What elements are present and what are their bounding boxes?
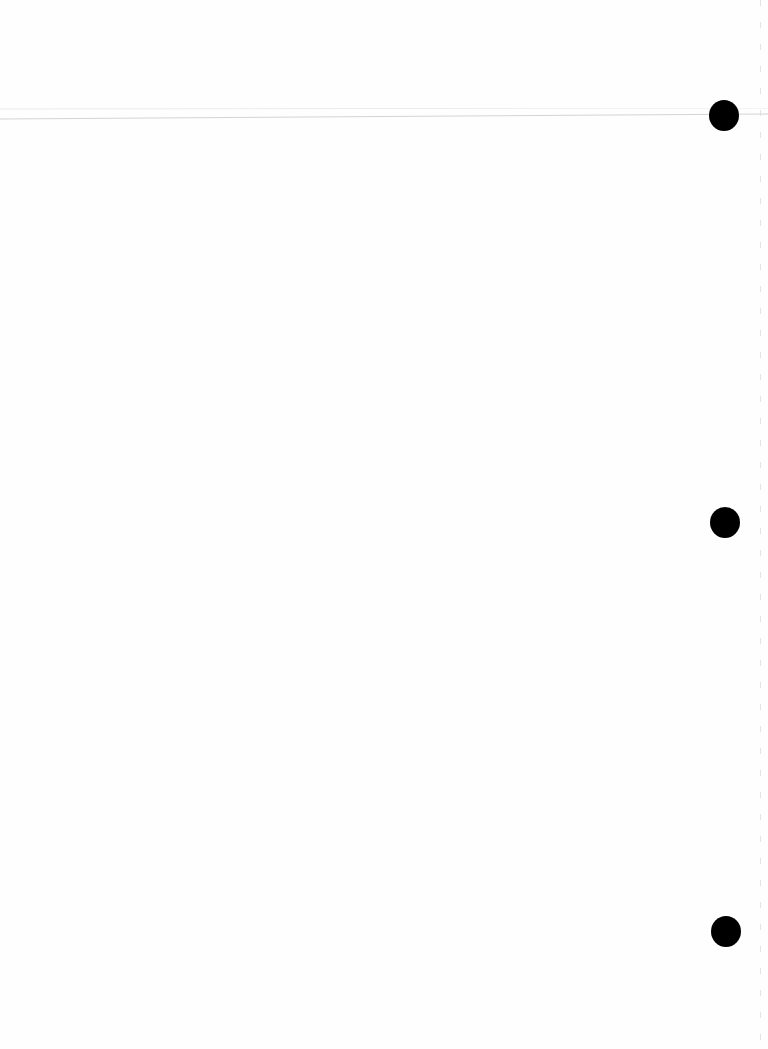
punch-hole-middle <box>710 507 740 538</box>
punch-hole-top <box>709 100 739 131</box>
page-edge-line <box>760 0 761 1049</box>
scan-fold-line <box>0 108 768 120</box>
blank-page <box>0 0 768 1049</box>
punch-hole-bottom <box>711 916 741 947</box>
